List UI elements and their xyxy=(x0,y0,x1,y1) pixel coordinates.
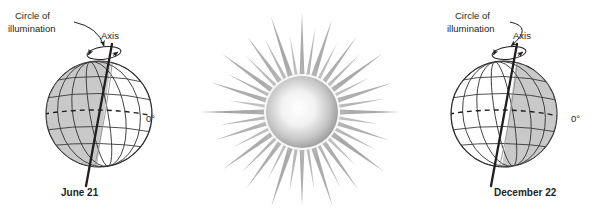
caption-june: June 21 xyxy=(61,187,99,198)
label-axis: Axis xyxy=(101,30,119,41)
label-circle-of-illumination-line2: illumination xyxy=(447,23,495,34)
sun-core xyxy=(266,76,338,148)
seasons-diagram: Circle of illumination Axis 0° June 21 xyxy=(0,0,604,214)
label-axis: Axis xyxy=(513,30,531,41)
label-equator-degree: 0° xyxy=(146,113,155,124)
label-circle-of-illumination-line1: Circle of xyxy=(15,10,50,21)
label-equator-degree: 0° xyxy=(571,113,580,124)
caption-december: December 22 xyxy=(494,187,557,198)
label-circle-of-illumination-line2: illumination xyxy=(8,23,56,34)
label-circle-of-illumination-line1: Circle of xyxy=(455,10,490,21)
diagram-canvas: Circle of illumination Axis 0° June 21 xyxy=(0,0,604,214)
